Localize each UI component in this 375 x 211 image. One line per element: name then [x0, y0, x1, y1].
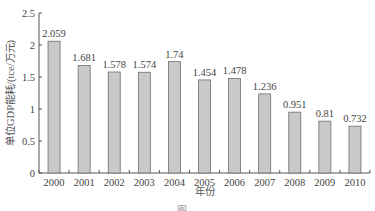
bar-2003	[138, 72, 150, 173]
x-tick-label: 2008	[284, 177, 305, 188]
y-tick-label: 1	[30, 104, 35, 115]
figure-caption-partial: 图	[177, 205, 187, 211]
bar-value-label: 1.574	[133, 59, 157, 70]
x-tick-label: 2004	[164, 177, 186, 188]
bar-2007	[259, 94, 271, 173]
bar-2002	[108, 72, 120, 173]
bar-value-label: 1.74	[165, 49, 184, 60]
x-tick-label: 2006	[224, 177, 245, 188]
x-tick-label: 2009	[314, 177, 335, 188]
bar-chart: 00.511.522.5 200020012002200320042005200…	[0, 0, 375, 211]
bar-value-label: 2.059	[42, 28, 66, 39]
x-tick-label: 2002	[104, 177, 125, 188]
bar-value-label: 0.951	[283, 99, 307, 110]
x-tick-label: 2007	[254, 177, 275, 188]
y-axis-title: 单位GDP能耗/(tce/万元)	[4, 39, 17, 146]
y-tick-label: 1.5	[22, 72, 35, 83]
y-tick-label: 2.5	[22, 8, 35, 19]
bar-value-label: 1.681	[72, 52, 96, 63]
bar-2004	[168, 62, 180, 173]
bar-2008	[289, 112, 301, 173]
x-tick-label: 2000	[44, 177, 65, 188]
x-tick-label: 2001	[74, 177, 95, 188]
y-tick-label: 0.5	[22, 136, 35, 147]
bar-value-label: 1.454	[193, 67, 217, 78]
bar-value-label: 0.81	[316, 108, 334, 119]
bar-2009	[319, 121, 331, 173]
bar-2010	[349, 126, 361, 173]
x-axis-title: 年份	[195, 185, 216, 197]
bar-value-label: 1.578	[102, 59, 126, 70]
bar-value-label: 1.478	[223, 65, 247, 76]
x-tick-label: 2003	[134, 177, 155, 188]
y-tick-label: 2	[30, 40, 35, 51]
y-axis: 00.511.522.5	[22, 8, 42, 179]
bar-2001	[78, 65, 90, 173]
y-tick-label: 0	[30, 168, 35, 179]
bar-value-label: 0.732	[343, 113, 367, 124]
bar-2005	[199, 80, 211, 173]
bar-value-label: 1.236	[253, 81, 277, 92]
bar-2000	[48, 41, 60, 173]
bar-2006	[229, 78, 241, 173]
x-tick-label: 2010	[344, 177, 365, 188]
